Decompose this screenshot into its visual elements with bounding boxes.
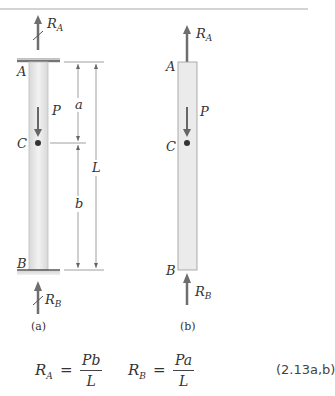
label-dim-l: L	[91, 161, 102, 174]
label-point-c-b: C	[166, 140, 176, 153]
label-point-b: B	[17, 257, 27, 270]
label-point-a: A	[17, 65, 26, 78]
eq-ra-denominator: L	[80, 373, 102, 389]
eq-fraction-bar	[173, 370, 194, 371]
caption-a: (a)	[31, 321, 46, 332]
eq-rb-symbol: RB	[128, 361, 146, 381]
reaction-arrow-a	[33, 15, 43, 50]
eq-ra-symbol: RA	[35, 361, 53, 381]
eq-rb-numerator: Pa	[173, 352, 194, 368]
label-point-a-b: A	[166, 60, 175, 73]
equation-2-13: RA = Pb L RB = Pa L (2.13a,b)	[30, 352, 330, 392]
eq-fraction-ra: Pb L	[80, 352, 102, 389]
label-dim-a: a	[74, 98, 84, 111]
reaction-arrow-b	[33, 281, 43, 314]
bar-b	[178, 62, 197, 270]
label-load-p-b: P	[200, 105, 209, 118]
label-ra-a: RA	[47, 17, 63, 33]
label-point-c: C	[17, 137, 27, 150]
label-point-b-b: B	[166, 264, 176, 277]
eq-ra-numerator: Pb	[80, 352, 102, 368]
caption-b: (b)	[180, 321, 196, 332]
eq-fraction-rb: Pa L	[173, 352, 194, 389]
bar-a	[29, 62, 48, 270]
figure-b	[178, 25, 197, 305]
bottom-support	[17, 271, 60, 275]
label-rb-a: RB	[45, 293, 61, 309]
equation-number: (2.13a,b)	[276, 362, 335, 377]
eq-equals-2: =	[153, 361, 166, 379]
eq-equals-1: =	[60, 361, 73, 379]
reaction-arrow-b-fbd	[183, 273, 191, 305]
eq-rb-denominator: L	[173, 373, 194, 389]
eq-fraction-bar	[80, 370, 102, 371]
label-rb-b: RB	[195, 285, 211, 301]
label-load-p: P	[52, 104, 61, 117]
label-ra-b: RA	[196, 27, 212, 43]
label-dim-b: b	[74, 197, 84, 210]
reaction-arrow-a-fbd	[183, 25, 191, 62]
beam-diagrams	[0, 0, 331, 340]
